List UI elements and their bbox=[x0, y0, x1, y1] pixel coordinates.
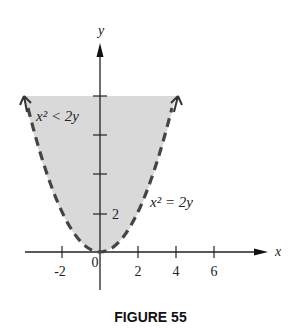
curve-label: x² = 2y bbox=[149, 194, 193, 210]
figure-caption: FIGURE 55 bbox=[0, 309, 301, 325]
svg-text:6: 6 bbox=[211, 264, 218, 279]
svg-text:0: 0 bbox=[92, 255, 99, 270]
svg-text:-2: -2 bbox=[54, 264, 66, 279]
y-axis-arrow-icon bbox=[97, 43, 104, 57]
x-tick-labels: -2 0 2 4 6 bbox=[54, 255, 217, 279]
y-axis-label: y bbox=[96, 23, 105, 38]
svg-text:2: 2 bbox=[135, 264, 142, 279]
x-axis-arrow-icon bbox=[254, 249, 268, 256]
x-axis-label: x bbox=[274, 244, 282, 259]
svg-text:4: 4 bbox=[173, 264, 180, 279]
region-label: x² < 2y bbox=[35, 108, 79, 124]
y-tick-label: 2 bbox=[112, 207, 119, 222]
figure-graph: y x -2 0 2 4 6 2 x² < 2y x² = 2y bbox=[0, 0, 301, 330]
